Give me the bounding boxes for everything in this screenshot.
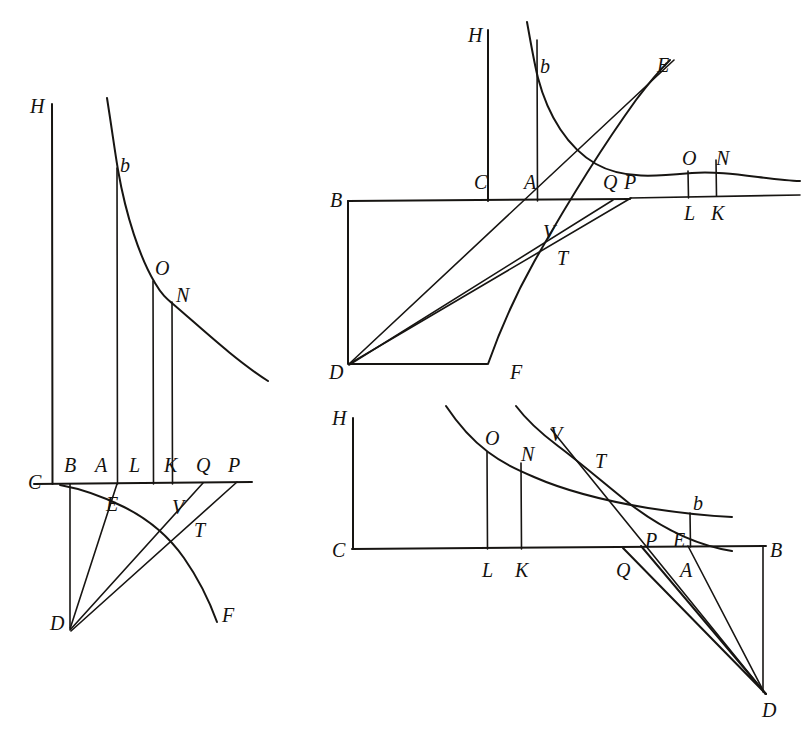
label-tr-E: E <box>657 55 669 75</box>
br-ray-D-to-Q <box>623 548 766 694</box>
label-left-Q: Q <box>196 455 210 475</box>
label-tr-T: T <box>557 248 568 268</box>
label-br-A: A <box>680 560 692 580</box>
br-arc-VT <box>516 406 732 551</box>
label-left-N: N <box>176 285 189 305</box>
label-tr-C: C <box>474 172 487 192</box>
label-left-A: A <box>95 455 107 475</box>
label-tr-P: P <box>624 172 636 192</box>
label-left-K: K <box>164 455 177 475</box>
label-tr-N: N <box>716 148 729 168</box>
label-br-C: C <box>332 540 345 560</box>
label-br-b: b <box>693 493 703 513</box>
label-tr-b: b <box>540 56 550 76</box>
label-br-P: P <box>645 530 657 550</box>
label-left-b: b <box>120 155 130 175</box>
label-left-O: O <box>155 258 169 278</box>
label-tr-V: V <box>543 222 555 242</box>
label-left-L: L <box>129 455 140 475</box>
br-vertical-E <box>690 513 691 547</box>
label-br-Q: Q <box>616 560 630 580</box>
br-hyperbola-curve <box>446 406 732 517</box>
label-left-E: E <box>106 494 118 514</box>
label-tr-F: F <box>510 362 522 382</box>
figure-bottom-right <box>0 0 808 754</box>
br-vertical-K <box>521 463 522 549</box>
label-br-N: N <box>521 444 534 464</box>
br-ray-D-to-P <box>641 546 766 694</box>
label-tr-Q: Q <box>603 172 617 192</box>
br-baseline <box>352 546 766 549</box>
diagram-canvas: H b O N B A L K Q P C E V T D F H b E O … <box>0 0 808 754</box>
label-tr-K: K <box>711 203 724 223</box>
label-br-T: T <box>595 451 606 471</box>
br-ray-D-to-A <box>688 546 765 694</box>
label-br-B: B <box>770 540 782 560</box>
label-tr-D: D <box>329 362 343 382</box>
label-br-O: O <box>485 428 499 448</box>
label-left-T: T <box>194 520 205 540</box>
label-tr-A: A <box>524 172 536 192</box>
label-br-L: L <box>482 560 493 580</box>
label-tr-H: H <box>468 25 482 45</box>
label-tr-O: O <box>682 148 696 168</box>
label-left-B: B <box>64 455 76 475</box>
label-left-C: C <box>28 472 41 492</box>
label-br-K: K <box>515 560 528 580</box>
label-tr-L: L <box>684 203 695 223</box>
label-left-D: D <box>50 613 64 633</box>
label-br-V: V <box>550 424 562 444</box>
label-left-P: P <box>228 455 240 475</box>
label-br-D: D <box>762 700 776 720</box>
label-left-H: H <box>30 96 44 116</box>
br-vertical-L <box>487 452 488 549</box>
label-tr-B: B <box>330 190 342 210</box>
label-left-F: F <box>222 605 234 625</box>
label-br-H: H <box>332 408 346 428</box>
label-br-E: E <box>673 530 685 550</box>
label-left-V: V <box>172 497 184 517</box>
